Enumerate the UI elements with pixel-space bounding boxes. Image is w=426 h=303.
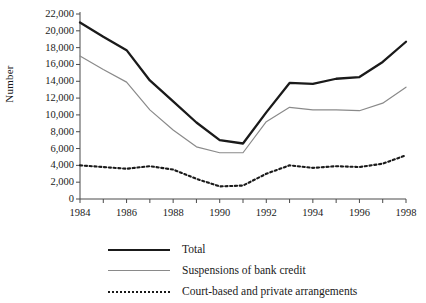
x-axis-tick-label: 1986 [116, 207, 137, 218]
legend-line-icon-total [108, 244, 170, 254]
x-axis-tick-label: 1994 [302, 207, 323, 218]
legend-item-suspensions: Suspensions of bank credit [108, 259, 426, 280]
legend-line-icon-court-based [108, 286, 170, 296]
x-axis-tick-label: 1992 [256, 207, 277, 218]
legend-label-court-based: Court-based and private arrangements [170, 285, 357, 297]
x-axis-tick-label: 1988 [163, 207, 184, 218]
x-axis-tick-label: 1984 [70, 207, 91, 218]
x-axis-tick-label: 1996 [349, 207, 370, 218]
legend-label-suspensions: Suspensions of bank credit [170, 264, 306, 276]
legend-item-total: Total [108, 238, 426, 259]
legend-label-total: Total [170, 243, 205, 255]
x-axis-tick-label: 1990 [209, 207, 230, 218]
chart-legend: Total Suspensions of bank credit Court-b… [108, 238, 426, 301]
x-axis-tick-label: 1998 [396, 207, 417, 218]
chart-figure: Number 02,0004,0006,0008,00010,00012,000… [0, 0, 426, 303]
legend-item-court-based: Court-based and private arrangements [108, 280, 426, 301]
legend-line-icon-suspensions [108, 265, 170, 275]
